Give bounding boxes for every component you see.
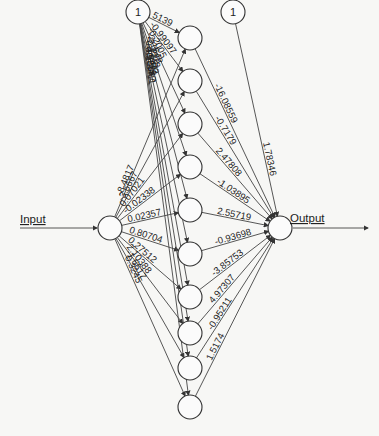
output-weight-label: -1.03895 bbox=[215, 175, 252, 205]
hidden-node bbox=[178, 198, 202, 222]
hidden-node bbox=[178, 155, 202, 179]
input-label: Input bbox=[20, 213, 46, 225]
output-weight-label: -0.93698 bbox=[213, 226, 252, 247]
hidden-node bbox=[178, 242, 202, 266]
output-weight-label: 1.5174 bbox=[203, 331, 226, 362]
output-node bbox=[268, 216, 292, 240]
hidden-node bbox=[178, 356, 202, 380]
hidden-node bbox=[178, 285, 202, 309]
hidden-node bbox=[178, 321, 202, 345]
hidden-node bbox=[178, 69, 202, 93]
output-weight-label: 2.55719 bbox=[216, 205, 252, 223]
hidden-node bbox=[178, 26, 202, 50]
hidden-node bbox=[178, 112, 202, 136]
hidden-node bbox=[178, 395, 202, 419]
neural-network-diagram: 5139-8.4817-16.08559-0.99097-3.6667-0.71… bbox=[0, 0, 379, 436]
bias-to-output-edge bbox=[236, 24, 278, 217]
bias-output-weight-label: 1.78346 bbox=[261, 141, 279, 177]
output-weight-label: 2.47808 bbox=[214, 145, 245, 178]
input-node bbox=[98, 216, 122, 240]
bias-node-output-text: 1 bbox=[230, 6, 236, 18]
bias-node-hidden-text: 1 bbox=[135, 6, 141, 18]
output-label: Output bbox=[290, 212, 325, 224]
